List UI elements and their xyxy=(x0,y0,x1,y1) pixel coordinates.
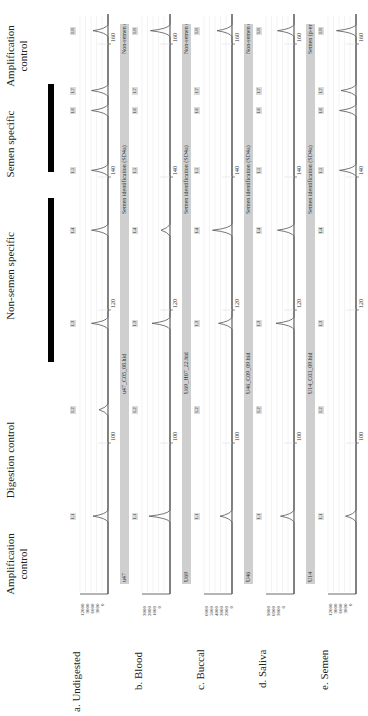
x-tick-label: 100 xyxy=(358,432,364,441)
trace-plot xyxy=(120,0,182,716)
x-tick-label: 120 xyxy=(110,299,116,308)
x-tick-label: 120 xyxy=(296,299,302,308)
panel-semen: U14U14_C03_09.hidSemen identification (S… xyxy=(306,0,368,716)
column-header-semen-specific: Semen specific xyxy=(4,104,17,184)
panel-undigested: L1L2L3L4L5L6L7L8120009000600030000100120… xyxy=(58,0,120,716)
x-tick-label: 160 xyxy=(172,33,178,42)
x-tick-label: 120 xyxy=(172,299,178,308)
panel-buccal: U69U69_H07_22.hidSemen identification (S… xyxy=(182,0,244,716)
panel-saliva: U46U46_C09_09.hidSemen identification (S… xyxy=(244,0,306,716)
trace-plot xyxy=(244,0,306,716)
x-tick-label: 100 xyxy=(172,432,178,441)
x-tick-label: 140 xyxy=(172,166,178,175)
non-semen-marker-bar xyxy=(48,198,54,362)
x-tick-label: 100 xyxy=(296,432,302,441)
x-tick-label: 140 xyxy=(110,166,116,175)
panel-blood: u47u47_C05_08.hidSemen identification (S… xyxy=(120,0,182,716)
x-tick-label: 120 xyxy=(234,299,240,308)
x-tick-label: 140 xyxy=(296,166,302,175)
x-tick-label: 160 xyxy=(358,33,364,42)
semen-marker-bar xyxy=(48,84,54,172)
x-tick-label: 160 xyxy=(234,33,240,42)
x-tick-label: 100 xyxy=(110,432,116,441)
x-tick-label: 100 xyxy=(234,432,240,441)
column-header-amplification-control-1: Amplification control xyxy=(4,524,30,604)
column-header-digestion-control: Digestion control xyxy=(4,420,17,500)
column-header-amplification-control-2: Amplification control xyxy=(4,16,30,96)
trace-plot xyxy=(306,0,368,716)
trace-plot xyxy=(58,0,120,716)
trace-plot xyxy=(182,0,244,716)
x-tick-label: 160 xyxy=(110,33,116,42)
column-header-non-semen-specific: Non-semen specific xyxy=(4,216,17,336)
x-tick-label: 120 xyxy=(358,299,364,308)
x-tick-label: 160 xyxy=(296,33,302,42)
x-tick-label: 140 xyxy=(358,166,364,175)
x-tick-label: 140 xyxy=(234,166,240,175)
